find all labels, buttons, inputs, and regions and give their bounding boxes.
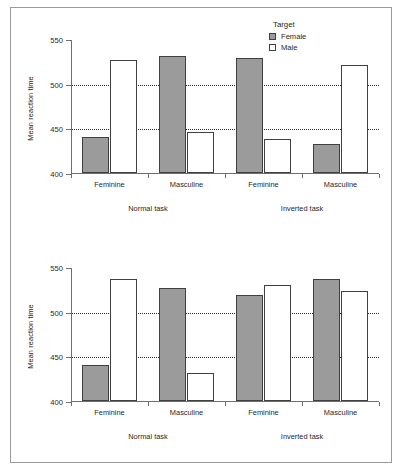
legend-entry-female: Female bbox=[269, 32, 306, 41]
legend-label-female: Female bbox=[281, 32, 306, 41]
upper-panel: Mean reaction time 400450500550 Feminine… bbox=[11, 8, 393, 236]
category-label-2: Feminine bbox=[248, 180, 278, 189]
x-tick-3 bbox=[302, 402, 303, 406]
y-tick-label-400: 400 bbox=[50, 170, 63, 179]
y-tick-550 bbox=[66, 268, 71, 269]
bar-female-3 bbox=[313, 144, 340, 173]
lower-panel: Mean reaction time 400450500550 Feminine… bbox=[11, 236, 393, 464]
y-axis-label: Mean reaction time bbox=[26, 277, 35, 397]
y-tick-label-550: 550 bbox=[50, 264, 63, 273]
bar-male-0 bbox=[110, 60, 137, 173]
category-label-2: Feminine bbox=[248, 408, 278, 417]
y-tick-450 bbox=[66, 129, 71, 130]
category-label-1: Masculine bbox=[170, 408, 203, 417]
bar-male-0 bbox=[110, 279, 137, 401]
y-tick-label-450: 450 bbox=[50, 353, 63, 362]
y-tick-label-550: 550 bbox=[50, 36, 63, 45]
y-tick-label-400: 400 bbox=[50, 398, 63, 407]
bar-female-1 bbox=[159, 56, 186, 173]
figure-frame: Mean reaction time 400450500550 Feminine… bbox=[10, 7, 392, 463]
x-tick-2 bbox=[225, 174, 226, 178]
y-axis-line bbox=[71, 268, 72, 402]
y-tick-label-500: 500 bbox=[50, 80, 63, 89]
y-tick-label-450: 450 bbox=[50, 125, 63, 134]
lower-plot-area: 400450500550 bbox=[71, 268, 379, 402]
legend-title: Target bbox=[273, 20, 306, 29]
category-label-0: Feminine bbox=[94, 180, 124, 189]
bar-male-1 bbox=[187, 132, 214, 173]
bar-female-0 bbox=[82, 137, 109, 173]
x-tick-0 bbox=[71, 402, 72, 406]
x-tick-0 bbox=[71, 174, 72, 178]
x-tick-end bbox=[379, 402, 380, 406]
task-label-1: Inverted task bbox=[281, 432, 323, 441]
x-tick-1 bbox=[148, 174, 149, 178]
y-tick-550 bbox=[66, 40, 71, 41]
x-tick-end bbox=[379, 174, 380, 178]
bar-female-2 bbox=[236, 295, 263, 401]
x-tick-3 bbox=[302, 174, 303, 178]
bar-female-1 bbox=[159, 288, 186, 401]
upper-plot-area: 400450500550 bbox=[71, 40, 379, 174]
bar-male-2 bbox=[264, 285, 291, 401]
bar-male-3 bbox=[341, 291, 368, 401]
category-label-3: Masculine bbox=[324, 180, 357, 189]
male-swatch-icon bbox=[269, 44, 276, 51]
legend-label-male: Male bbox=[281, 43, 297, 52]
category-label-3: Masculine bbox=[324, 408, 357, 417]
category-label-1: Masculine bbox=[170, 180, 203, 189]
legend-entry-male: Male bbox=[269, 43, 306, 52]
bar-female-0 bbox=[82, 365, 109, 401]
bar-male-1 bbox=[187, 373, 214, 401]
bar-male-2 bbox=[264, 139, 291, 173]
y-tick-450 bbox=[66, 357, 71, 358]
y-tick-label-500: 500 bbox=[50, 308, 63, 317]
task-label-0: Normal task bbox=[128, 204, 167, 213]
y-tick-500 bbox=[66, 313, 71, 314]
bar-female-2 bbox=[236, 58, 263, 173]
x-tick-1 bbox=[148, 402, 149, 406]
female-swatch-icon bbox=[269, 33, 276, 40]
task-label-1: Inverted task bbox=[281, 204, 323, 213]
bar-male-3 bbox=[341, 65, 368, 173]
x-tick-2 bbox=[225, 402, 226, 406]
legend: Target Female Male bbox=[269, 20, 306, 54]
y-axis-label: Mean reaction time bbox=[26, 49, 35, 169]
bar-female-3 bbox=[313, 279, 340, 401]
category-label-0: Feminine bbox=[94, 408, 124, 417]
y-axis-line bbox=[71, 40, 72, 174]
y-tick-500 bbox=[66, 85, 71, 86]
task-label-0: Normal task bbox=[128, 432, 167, 441]
